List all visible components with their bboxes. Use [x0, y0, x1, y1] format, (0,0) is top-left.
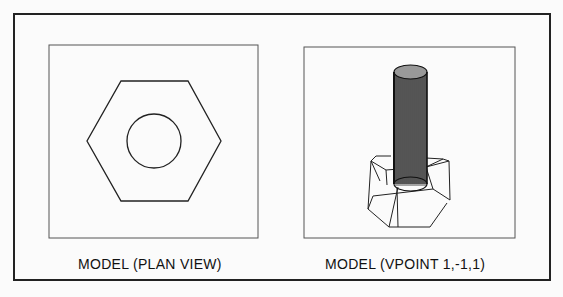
hole-circle-plan [127, 114, 181, 168]
plan-view-caption: MODEL (PLAN VIEW) [78, 256, 222, 272]
drawing-canvas [0, 0, 563, 297]
hexagon-plan [87, 81, 221, 201]
cylinder-3d [394, 65, 427, 191]
vpoint-caption: MODEL (VPOINT 1,-1,1) [325, 256, 485, 272]
plan-viewport [49, 45, 258, 238]
